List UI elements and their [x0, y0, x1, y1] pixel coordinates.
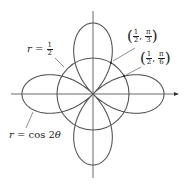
diagram-graphics	[0, 0, 189, 185]
rose-label-rhs: cos 2	[29, 129, 55, 140]
polar-diagram: r = 1 2 (12, π3) (12, π6) r = cos 2θ	[0, 0, 189, 185]
leader-rose	[26, 112, 33, 128]
rose-label-var: r	[9, 129, 14, 140]
leader-circle	[55, 58, 64, 67]
leader-pi-6	[126, 67, 141, 75]
leader-pi-3	[113, 48, 135, 61]
rose-label-eq: =	[17, 129, 25, 140]
circle-label-var: r	[27, 43, 32, 54]
point-pi-3	[110, 62, 112, 64]
fraction-den: 6	[158, 59, 165, 66]
rose-label-theta: θ	[55, 129, 61, 140]
circle-label-fraction: 1 2	[47, 42, 53, 57]
circle-label-eq: =	[35, 43, 43, 54]
fraction: π3	[145, 29, 152, 44]
point-pi-6	[123, 75, 125, 77]
comma: ,	[152, 53, 155, 63]
circle-label: r = 1 2	[27, 42, 53, 57]
rose-label: r = cos 2θ	[9, 129, 61, 140]
paren: )	[152, 27, 158, 45]
paren: )	[165, 49, 171, 67]
comma: ,	[139, 31, 142, 41]
fraction-den: 3	[145, 37, 152, 44]
fraction-den: 2	[47, 50, 53, 57]
point-pi-3-label: (12, π3)	[127, 27, 158, 45]
fraction: π6	[158, 51, 165, 66]
point-pi-6-label: (12, π6)	[140, 49, 171, 67]
